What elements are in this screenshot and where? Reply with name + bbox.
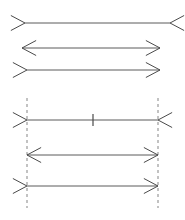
- lower-line-1-right-fin: [158, 112, 172, 127]
- upper-line-1-left-fin: [11, 15, 25, 30]
- upper-line-3-left-fin: [13, 62, 27, 77]
- figure-root: [0, 0, 185, 220]
- upper-line-1-right-fin: [170, 15, 184, 30]
- lower-line-1-left-fin: [13, 112, 27, 127]
- muller-lyer-diagram: [0, 0, 185, 220]
- lower-line-3-left-fin: [13, 178, 27, 193]
